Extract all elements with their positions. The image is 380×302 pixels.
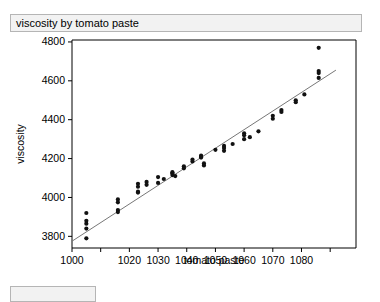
data-point (271, 117, 275, 121)
x-tick-label: 1020 (118, 254, 142, 266)
x-axis-label: tomato paste (184, 254, 245, 266)
y-tick-label: 4200 (42, 152, 66, 164)
data-point (317, 76, 321, 80)
data-point (84, 236, 88, 240)
data-points (84, 46, 321, 241)
y-tick-label: 4600 (42, 74, 66, 86)
data-point (222, 149, 226, 153)
bottom-status-panel[interactable] (10, 286, 96, 302)
data-point (294, 100, 298, 104)
page-title: viscosity by tomato paste (16, 18, 139, 29)
axis-tick-labels: 3800400042004400460048001000102010301040… (42, 35, 314, 266)
data-point (156, 175, 160, 179)
x-tick-label: 1080 (290, 254, 314, 266)
data-point (116, 200, 120, 204)
chart-canvas: 3800400042004400460048001000102010301040… (0, 32, 380, 272)
data-point (190, 159, 194, 163)
data-point (242, 137, 246, 141)
y-tick-label: 4000 (42, 191, 66, 203)
data-point (84, 211, 88, 215)
axis-ticks (68, 42, 330, 252)
chart-title-bar: viscosity by tomato paste (10, 14, 362, 32)
y-axis-label: viscosity (14, 123, 26, 163)
data-point (162, 177, 166, 181)
data-point (173, 174, 177, 178)
data-point (242, 133, 246, 137)
data-point (317, 71, 321, 75)
data-point (136, 190, 140, 194)
scatter-chart: 3800400042004400460048001000102010301040… (0, 32, 380, 272)
data-point (84, 226, 88, 230)
data-point (144, 183, 148, 187)
fit-line (72, 70, 336, 241)
data-point (248, 135, 252, 139)
data-point (84, 222, 88, 226)
plot-frame (72, 40, 356, 248)
regression-line (72, 70, 336, 241)
x-tick-label: 1000 (60, 254, 84, 266)
data-point (279, 110, 283, 114)
data-point (182, 166, 186, 170)
x-tick-label: 1070 (261, 254, 285, 266)
data-point (136, 185, 140, 189)
y-tick-label: 3800 (42, 230, 66, 242)
x-tick-label: 1030 (146, 254, 170, 266)
data-point (202, 163, 206, 167)
y-tick-label: 4400 (42, 113, 66, 125)
data-point (317, 46, 321, 50)
data-point (231, 142, 235, 146)
data-point (256, 129, 260, 133)
data-point (213, 148, 217, 152)
data-point (156, 181, 160, 185)
data-point (199, 156, 203, 160)
y-tick-label: 4800 (42, 35, 66, 47)
data-point (116, 210, 120, 214)
data-point (302, 92, 306, 96)
